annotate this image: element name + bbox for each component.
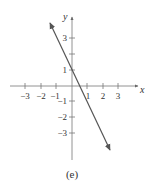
x-tick-label: −2: [36, 91, 46, 101]
coordinate-plane: −3 −2 −1 1 2 3 3 1 −1 −2 −3 x y (e): [0, 0, 153, 184]
y-tick-label: −2: [57, 112, 67, 122]
x-tick-label: −3: [20, 91, 30, 101]
x-axis-label: x: [139, 84, 145, 95]
y-tick-label: −3: [57, 128, 67, 138]
figure-caption: (e): [66, 168, 79, 181]
y-tick-label: 3: [63, 33, 68, 43]
y-axis-label: y: [62, 11, 68, 22]
x-tick-label: 3: [116, 91, 121, 101]
y-tick-label: 1: [63, 65, 68, 75]
y-tick-label: −1: [57, 96, 67, 106]
x-tick-label: 2: [101, 91, 106, 101]
